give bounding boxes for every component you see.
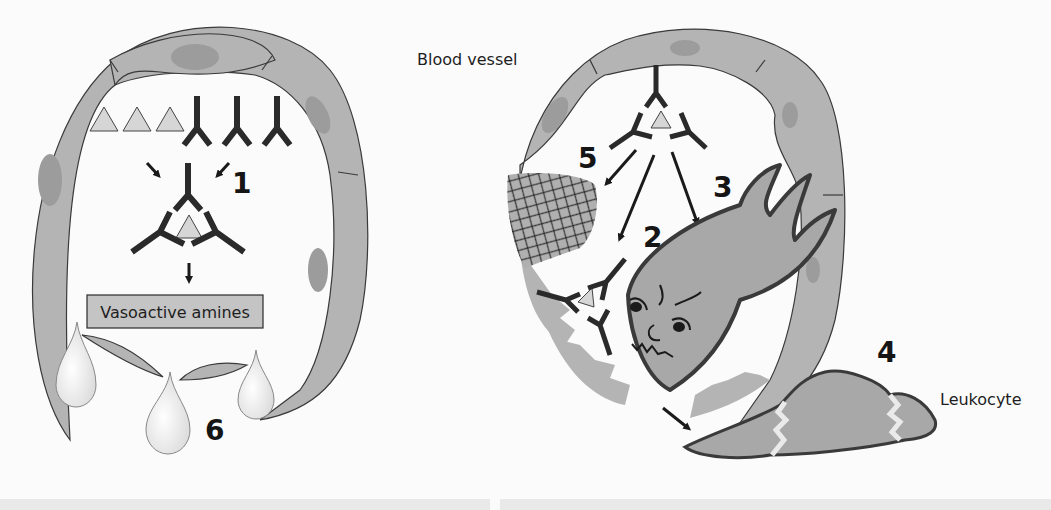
migration-arrow: [663, 408, 688, 428]
antibody-row: [184, 96, 290, 145]
nucleus: [670, 40, 700, 56]
vasoactive-amines-box: Vasoactive amines: [87, 295, 263, 328]
step-3-label: 3: [713, 171, 732, 204]
nucleus: [782, 102, 798, 128]
nucleus: [308, 248, 328, 292]
blood-vessel-label: Blood vessel: [417, 50, 518, 69]
immune-complex-diagram: 1 Vasoactive amines 6 Blood vessel: [0, 0, 1051, 510]
antigen-row: [90, 107, 184, 131]
step-4-label: 4: [877, 336, 896, 369]
immune-complex: [132, 163, 244, 252]
nucleus: [38, 154, 62, 206]
bottom-panel-strip-right: [500, 499, 1051, 510]
leukocyte-label: Leukocyte: [940, 390, 1021, 409]
eye: [673, 322, 685, 332]
bottom-panel-strip-left: [0, 499, 490, 510]
fluid-droplets: [56, 322, 274, 454]
step-6-label: 6: [205, 414, 224, 447]
step-5-label: 5: [578, 142, 597, 175]
nucleus: [171, 44, 219, 70]
step-1-label: 1: [232, 167, 251, 200]
vasoactive-amines-label: Vasoactive amines: [100, 303, 250, 322]
basement-membrane-mesh: [507, 173, 597, 268]
eye: [630, 302, 642, 312]
immune-complex: [610, 65, 706, 148]
